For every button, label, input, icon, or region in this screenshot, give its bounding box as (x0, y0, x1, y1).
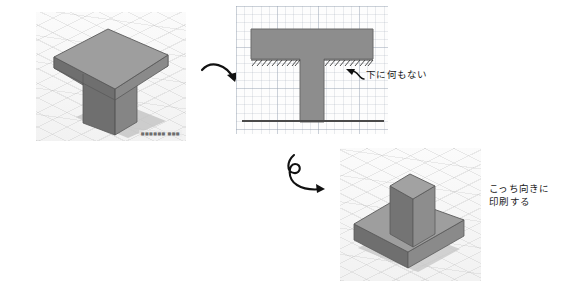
diagram-canvas: ■■■■■■ ■■■ (0, 0, 580, 295)
original-3d-model-viewport: ■■■■■■ ■■■ (36, 12, 186, 141)
flipped-model-svg (340, 148, 481, 281)
overhang-pointer-icon (344, 66, 366, 82)
viewport-watermark: ■■■■■■ ■■■ (139, 130, 182, 137)
original-model-svg (36, 12, 186, 141)
overhang-note: 下に何もない (366, 68, 428, 81)
flipped-3d-model-viewport (340, 148, 481, 281)
flange-top-face (54, 29, 168, 89)
loop-rotate-arrow-icon (283, 152, 331, 198)
print-orientation-note: こっち向きに 印刷する (489, 182, 550, 208)
overhang-hatching-left (251, 60, 300, 66)
